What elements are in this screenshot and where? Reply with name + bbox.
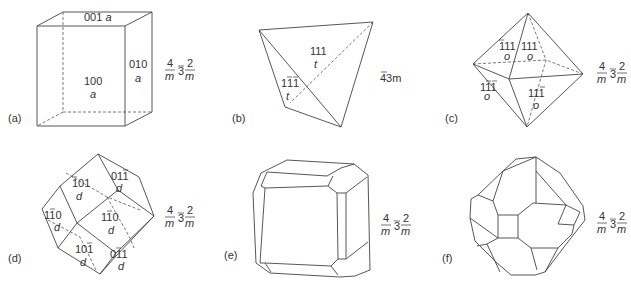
face-label-011bar: 011	[111, 170, 129, 182]
svg-text:m: m	[617, 223, 626, 235]
svg-text:4: 4	[383, 212, 389, 224]
panel-a-cube: 001 a 010 a 100 a (a) 4 m 3 2 m	[8, 11, 195, 126]
svg-text:d: d	[118, 260, 125, 272]
svg-text:3: 3	[394, 220, 400, 232]
svg-text:2: 2	[619, 210, 625, 222]
svg-text:3: 3	[178, 212, 184, 224]
face-label-1-1bar-1bar-letter: t	[286, 90, 290, 102]
symmetry-symbol-f: 4 m 3 2 m	[597, 210, 627, 235]
svg-text:o: o	[527, 50, 533, 62]
face-label-001: 001 a	[84, 11, 112, 23]
svg-text:3: 3	[178, 65, 184, 77]
panel-d-dodecahedron: 101 d 011 d 110 d 110 d 101 d 011 d (d) …	[8, 154, 195, 274]
face-label-111-letter: t	[314, 58, 318, 70]
face-label-11bar0: 110	[101, 211, 119, 223]
svg-text:o: o	[533, 99, 539, 111]
svg-text:1: 1	[293, 77, 299, 89]
svg-text:3: 3	[610, 68, 616, 80]
svg-text:m: m	[185, 217, 194, 229]
face-label-111bar: 111	[528, 87, 545, 99]
svg-text:4: 4	[167, 204, 173, 216]
svg-text:m: m	[165, 70, 174, 82]
svg-text:43m: 43m	[380, 72, 401, 84]
svg-text:4: 4	[599, 60, 605, 72]
panel-f-dodecahedron-combination: (f) 4 m 3 2 m	[442, 157, 627, 275]
panel-b-tetrahedron: 111 t 1 1 1 t (b) 43m	[232, 22, 401, 127]
panel-e-cube-combination: (e) 4 m 3 2 m	[224, 160, 411, 277]
svg-text:2: 2	[619, 60, 625, 72]
face-label-1bar10: 110	[44, 209, 62, 221]
svg-text:m: m	[381, 225, 390, 237]
svg-text:o: o	[504, 50, 510, 62]
panel-c-octahedron: 111 o 111 o 111 o 111 o (c) 4 m 3 2 m	[445, 13, 627, 127]
svg-text:d: d	[54, 221, 61, 233]
svg-text:m: m	[597, 73, 606, 85]
svg-text:d: d	[80, 256, 87, 268]
face-label-01bar1: 011	[110, 248, 128, 260]
svg-text:2: 2	[403, 212, 409, 224]
crystal-forms-figure: 001 a 010 a 100 a (a) 4 m 3 2 m 111 t 1 …	[0, 0, 631, 285]
svg-text:m: m	[185, 70, 194, 82]
symmetry-symbol-d: 4 m 3 2 m	[165, 204, 195, 229]
svg-text:m: m	[617, 73, 626, 85]
svg-text:4: 4	[167, 57, 173, 69]
svg-text:o: o	[484, 90, 490, 102]
svg-text:3: 3	[610, 218, 616, 230]
face-label-101bar: 101	[75, 243, 93, 255]
symmetry-symbol-b: 43m	[380, 72, 401, 84]
symmetry-symbol-a: 4 m 3 2 m	[165, 57, 195, 82]
symmetry-symbol-e: 4 m 3 2 m	[381, 212, 411, 237]
svg-text:m: m	[597, 223, 606, 235]
face-label-100-index: 100	[84, 75, 102, 87]
face-label-100-letter: a	[90, 88, 96, 100]
svg-text:m: m	[401, 225, 410, 237]
svg-text:d: d	[116, 182, 123, 194]
symmetry-symbol-c: 4 m 3 2 m	[597, 60, 627, 85]
panel-label-c: (c)	[445, 112, 458, 124]
face-label-010-index: 010	[129, 58, 147, 70]
svg-text:d: d	[76, 190, 83, 202]
svg-text:2: 2	[187, 57, 193, 69]
panel-label-b: (b)	[232, 112, 245, 124]
svg-text:d: d	[108, 224, 115, 236]
svg-text:2: 2	[187, 204, 193, 216]
face-label-111: 111	[310, 45, 327, 57]
face-label-1bar01: 101	[72, 177, 90, 189]
svg-text:m: m	[165, 217, 174, 229]
panel-label-f: (f)	[442, 252, 452, 264]
svg-text:4: 4	[599, 210, 605, 222]
face-label-010-letter: a	[135, 72, 141, 84]
panel-label-e: (e)	[224, 249, 237, 261]
panel-label-a: (a)	[8, 112, 21, 124]
panel-label-d: (d)	[8, 252, 21, 264]
